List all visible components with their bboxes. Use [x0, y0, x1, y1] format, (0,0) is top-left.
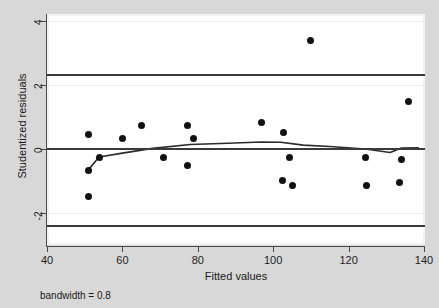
data-point: [85, 193, 92, 200]
data-point: [280, 129, 287, 136]
x-tick-label-100: 100: [253, 254, 293, 266]
x-tick-label-40: 40: [27, 254, 67, 266]
data-point: [96, 154, 103, 161]
data-point: [138, 122, 145, 129]
x-tick-mark-60: [122, 246, 123, 252]
y-axis-title: Studentized residuals: [16, 26, 28, 226]
x-tick-label-60: 60: [102, 254, 142, 266]
x-tick-mark-120: [349, 246, 350, 252]
y-axis-spine: [46, 14, 47, 246]
data-point: [307, 37, 314, 44]
x-tick-mark-140: [424, 246, 425, 252]
x-axis-title: Fitted values: [47, 270, 425, 282]
x-tick-mark-80: [198, 246, 199, 252]
bandwidth-annotation: bandwidth = 0.8: [40, 290, 111, 301]
gridline-y--2: [47, 213, 425, 214]
y-tick-label-0: 0: [33, 148, 44, 178]
data-point: [190, 135, 197, 142]
y-tick-label--2: -2: [33, 212, 44, 242]
scatter-plot-figure: Fitted values Studentized residuals band…: [0, 0, 439, 308]
data-point: [363, 182, 370, 189]
y-tick-label-2: 2: [33, 84, 44, 114]
x-tick-label-120: 120: [329, 254, 369, 266]
x-tick-label-80: 80: [178, 254, 218, 266]
gridline-y-2: [47, 85, 425, 86]
data-point: [85, 131, 92, 138]
gridline-y-4: [47, 21, 425, 22]
y-tick-label-4: 4: [33, 20, 44, 50]
x-axis-spine: [46, 246, 425, 247]
data-point: [119, 135, 126, 142]
data-point: [289, 182, 296, 189]
data-point: [85, 167, 92, 174]
x-tick-mark-100: [273, 246, 274, 252]
data-point: [160, 154, 167, 161]
reference-line-2: [47, 225, 425, 227]
data-point: [279, 177, 286, 184]
reference-line-1: [47, 148, 425, 150]
plot-area: [47, 14, 425, 245]
data-point: [258, 119, 265, 126]
x-tick-mark-40: [47, 246, 48, 252]
lowess-smoother-line: [47, 14, 425, 245]
reference-line-0: [47, 74, 425, 76]
x-tick-label-140: 140: [404, 254, 439, 266]
